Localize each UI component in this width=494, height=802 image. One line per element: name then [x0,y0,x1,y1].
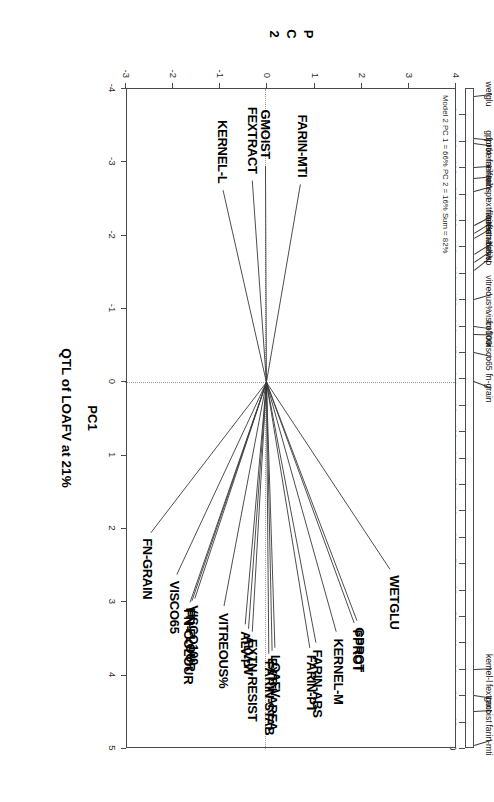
ruler-tick-mark [459,114,465,115]
ruler-tick-mark [459,326,465,327]
y-tick-mark [172,83,173,88]
y-tick-mark [408,83,409,88]
ruler-tick-mark [459,616,465,617]
ruler-tick-mark [459,194,465,195]
plot-area: WETGLUGPROTFPROTKERNEL-MFARIN-ABSFARIN-P… [126,88,456,748]
x-tick-mark [121,748,126,749]
y-tick-mark [361,83,362,88]
variable-label: FARIN-MTI [294,114,309,177]
x-tick-label: -3 [107,157,118,165]
ruler-tick-mark [459,431,465,432]
y-tick-label: 1 [309,73,320,78]
ruler-tick-mark [459,590,465,591]
ruler-tick-mark [459,484,465,485]
ruler-marker-label: kernel-l [484,654,494,682]
x-tick-mark [121,88,126,89]
ruler-marker-label: alv-p [484,247,494,266]
loading-vector [266,382,354,623]
model-summary-note: Model 2 PC 1 = 66% PC 2 = 16% Sum = 82% [441,95,450,253]
y-tick-mark [455,83,456,88]
variable-label: ALV-P [237,631,252,667]
ruler-tick-mark [459,246,465,247]
y-tick-label: -3 [121,70,132,78]
y-tick-label: 4 [451,73,462,78]
variable-label: VITREOUS% [215,613,230,688]
x-tick-mark [121,308,126,309]
x-tick-mark [121,528,126,529]
y-tick-mark [125,83,126,88]
variable-label: FPROT [349,629,364,672]
ruler-tick-mark [459,510,465,511]
variable-label: FEXTRACT [244,107,259,174]
y-axis-title-char: P [300,24,317,44]
variable-label: FN-GRAIN [139,538,154,599]
ruler-marker-label: wetglu [484,82,494,107]
y-tick-label: -1 [215,70,226,78]
y-axis-title-char: C [283,24,300,44]
x-tick-label: 0 [107,379,118,384]
loading-vector [266,184,300,382]
y-axis-title: PC2 [266,24,317,44]
y-tick-label: 0 [262,73,273,78]
ruler-tick-mark [459,299,465,300]
loading-vector [266,382,357,620]
ruler-tick-mark [459,537,465,538]
y-tick-label: 2 [356,73,367,78]
ruler-tick-mark [459,352,465,353]
variable-label: KERNEL-M [331,638,346,704]
x-tick-mark [121,235,126,236]
variable-label: WETGLU [386,575,401,630]
ruler-marker-label: farin-pt [484,173,494,200]
variable-label: KERNEL-L [214,120,229,183]
variable-label: FN-COLOUR [180,609,195,684]
x-tick-mark [121,455,126,456]
y-axis-title-char: 2 [266,24,283,44]
x-tick-mark [121,675,126,676]
ruler-tick-mark [459,378,465,379]
ruler-tick-mark [459,273,465,274]
y-tick-label: -2 [168,70,179,78]
x-tick-mark [121,381,126,382]
loading-vector [177,382,267,574]
y-tick-mark [266,83,267,88]
biplot-figure: 2402302202102001901801701601501401301201… [0,0,494,802]
loading-vector [190,382,266,602]
chart-title: QTL of LOAFV at 21% [59,348,74,487]
x-axis-title: PC1 [85,405,100,430]
ruler-tick-mark [459,405,465,406]
ruler-tick-mark [459,695,465,696]
x-tick-label: 5 [107,745,118,750]
y-tick-mark [219,83,220,88]
variable-label: VISCO65 [166,581,181,634]
ruler-tick-mark [459,220,465,221]
loading-vector [245,382,266,624]
ruler-marker-label: fn-grain [484,373,494,402]
ruler-tick-mark [459,722,465,723]
ruler-marker-label: farin-mti [484,724,494,755]
ruler-tick-mark [459,748,465,749]
x-tick-label: -2 [107,230,118,238]
x-tick-label: -1 [107,304,118,312]
loading-vector [151,382,267,532]
ruler-bar [465,88,474,748]
variable-label: FARIN-PT [303,655,318,713]
loading-vectors [125,89,455,749]
x-tick-label: 4 [107,672,118,677]
ruler-marker-label: vitreous% [484,275,494,313]
x-tick-mark [121,601,126,602]
ruler-tick-mark [459,167,465,168]
ruler-tick-mark [459,642,465,643]
x-tick-mark [121,161,126,162]
loading-vector [266,382,390,569]
x-tick-label: -4 [107,84,118,92]
ruler-tick-mark [459,458,465,459]
loading-vector [249,382,267,628]
x-tick-label: 1 [107,452,118,457]
ruler-tick-mark [459,141,465,142]
ruler-marker-label: visco65 [484,341,494,370]
y-tick-mark [314,83,315,88]
ruler-tick-mark [459,563,465,564]
variable-label: GMOIST [258,110,273,159]
qtl-linkage-ruler: 2402302202102001901801701601501401301201… [456,88,494,748]
x-tick-label: 3 [107,599,118,604]
